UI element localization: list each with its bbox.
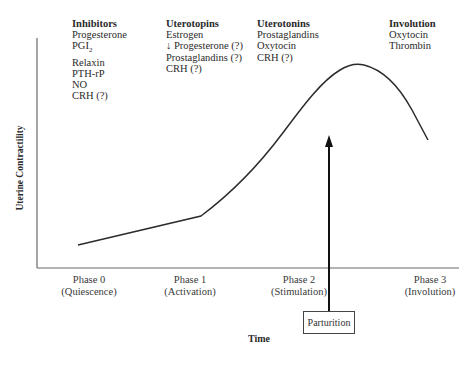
list-item: Estrogen	[166, 29, 243, 40]
list-item: Progesterone	[72, 29, 127, 40]
involution-column: Involution Oxytocin Thrombin	[389, 18, 436, 52]
y-axis-label: Uterine Contractility	[15, 108, 25, 228]
list-item: CRH (?)	[166, 63, 243, 74]
phase-1-label: Phase 1 (Activation)	[145, 274, 235, 298]
list-item: PTH-rP	[72, 68, 127, 79]
list-item: Relaxin	[72, 57, 127, 68]
phase-2-label: Phase 2 (Stimulation)	[254, 274, 344, 298]
x-axis-label: Time	[248, 333, 270, 344]
list-item: Prostaglandins	[257, 29, 319, 40]
phase-0-label: Phase 0 (Quiescence)	[44, 274, 134, 298]
inhibitors-column: Inhibitors Progesterone PGI2 Relaxin PTH…	[72, 18, 127, 102]
phase-3-label: Phase 3 (Involution)	[385, 274, 473, 298]
arrow-up-icon	[325, 135, 333, 147]
uterotopins-column: Uterotopins Estrogen ↓ Progesterone (?) …	[166, 18, 243, 74]
uterotonins-column: Uterotonins Prostaglandins Oxytocin CRH …	[257, 18, 319, 63]
list-item: Oxytocin	[389, 29, 436, 40]
column-header: Uterotonins	[257, 18, 319, 29]
list-item: CRH (?)	[257, 52, 319, 63]
list-item: ↓ Progesterone (?)	[166, 40, 243, 51]
list-item: CRH (?)	[72, 90, 127, 101]
list-item: PGI2	[72, 40, 127, 56]
list-item: NO	[72, 79, 127, 90]
list-item: Thrombin	[389, 40, 436, 51]
list-item: Prostaglandins (?)	[166, 52, 243, 63]
column-header: Involution	[389, 18, 436, 29]
list-item: Oxytocin	[257, 40, 319, 51]
parturition-box: Parturition	[303, 311, 355, 334]
contractility-curve	[78, 64, 428, 245]
column-header: Uterotopins	[166, 18, 243, 29]
column-header: Inhibitors	[72, 18, 127, 29]
